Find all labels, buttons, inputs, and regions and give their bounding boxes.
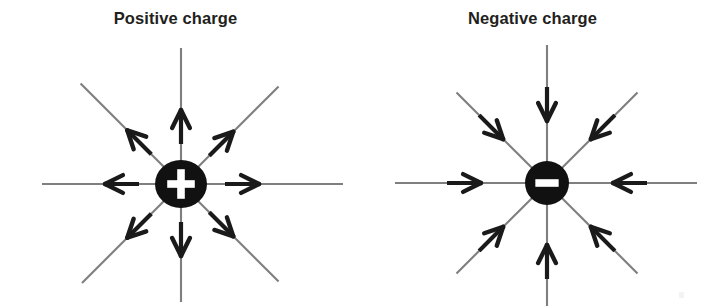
field-line-shaft [81,84,165,168]
field-line-up-left [456,92,532,168]
field-line-down-right [561,197,637,273]
field-line-shaft [82,200,165,283]
field-line-up-right [561,92,637,168]
field-line-up-left [81,84,165,168]
negative-charge-diagram [351,0,702,306]
positive-charge-diagram [0,0,351,306]
minus-symbol [535,179,558,187]
sign-horizontal-bar [535,179,558,187]
electric-field-figure: Positive charge Negative charge [0,0,702,306]
field-line-right [204,175,343,193]
field-line-down-left [456,197,532,273]
sign-vertical-bar [177,169,185,199]
scan-speck [679,292,684,298]
positive-charge-panel: Positive charge [0,0,351,306]
field-line-down-left [82,200,165,283]
field-line-up-right [197,86,278,167]
field-line-down [172,207,190,302]
field-line-up [172,48,190,161]
field-line-up [538,45,556,163]
field-line-right [567,174,697,192]
negative-charge-panel: Negative charge [351,0,702,306]
field-line-left [42,175,158,193]
field-line-left [395,174,527,192]
field-line-down-right [197,200,278,281]
field-line-down [538,203,556,306]
